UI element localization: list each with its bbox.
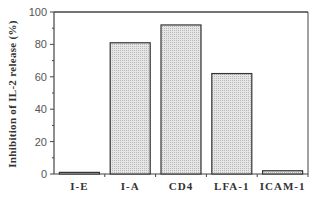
y-tick-label: 100 (29, 6, 47, 18)
bar-i-a (110, 43, 150, 174)
bar-lfa-1 (212, 74, 252, 174)
y-tick-label: 0 (41, 168, 47, 180)
bar-cd4 (161, 25, 201, 174)
y-axis-label: Inhibition of IL-2 release (%) (6, 14, 18, 174)
y-tick-label: 80 (35, 38, 47, 50)
bars (59, 25, 302, 174)
x-axis-labels: I-EI-ACD4LFA-1ICAM-1 (70, 174, 308, 192)
bar-chart: 020406080100 I-EI-ACD4LFA-1ICAM-1 (0, 0, 312, 200)
bar-icam-1 (263, 171, 303, 174)
bar-i-e (59, 172, 99, 174)
x-tick-label: I-A (121, 180, 140, 192)
x-tick-label: CD4 (169, 180, 193, 192)
y-tick-label: 20 (35, 136, 47, 148)
y-axis: 020406080100 (29, 6, 54, 180)
x-tick-label: I-E (70, 180, 88, 192)
x-tick-label: ICAM-1 (260, 180, 306, 192)
x-tick-label: LFA-1 (214, 180, 249, 192)
y-tick-label: 60 (35, 71, 47, 83)
y-tick-label: 40 (35, 103, 47, 115)
